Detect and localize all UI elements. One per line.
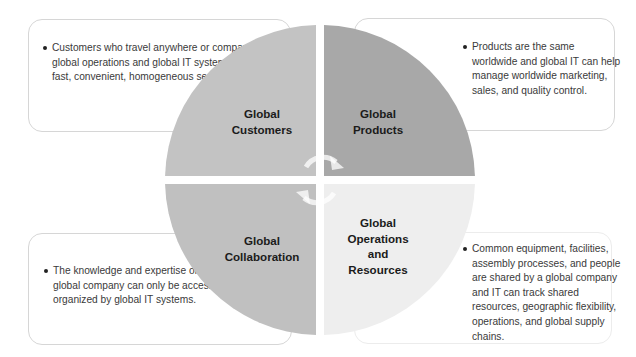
- products-label-line2: Products: [340, 122, 416, 138]
- products-quadrant: [324, 25, 475, 176]
- operations-label-line1: Global: [340, 215, 416, 231]
- operations-label: Global Operations and Resources: [340, 215, 416, 277]
- products-label: Global Products: [340, 106, 416, 137]
- customers-label: Global Customers: [222, 106, 302, 137]
- products-label-line1: Global: [340, 106, 416, 122]
- customers-label-line1: Global: [222, 106, 302, 122]
- operations-label-line4: Resources: [340, 262, 416, 278]
- operations-label-line2: Operations: [340, 231, 416, 247]
- collaboration-label-line2: Collaboration: [214, 249, 310, 265]
- collaboration-label: Global Collaboration: [214, 233, 310, 264]
- customers-label-line2: Customers: [222, 122, 302, 138]
- quadrant-wheel: [0, 0, 636, 357]
- customers-quadrant: [165, 25, 316, 176]
- collaboration-label-line1: Global: [214, 233, 310, 249]
- operations-label-line3: and: [340, 246, 416, 262]
